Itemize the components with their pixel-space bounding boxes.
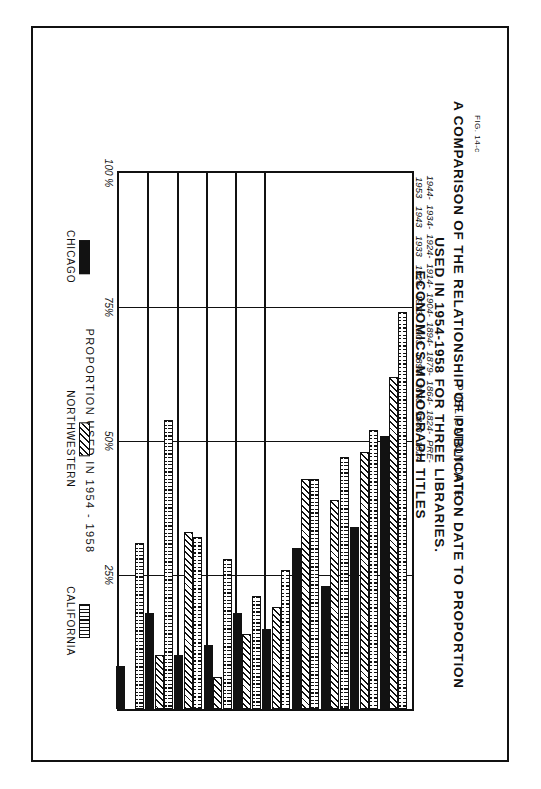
bar-group xyxy=(294,173,323,709)
category-tick: 1914-1923 xyxy=(414,263,436,287)
value-tick-100: 100 % xyxy=(103,158,114,186)
value-tick-25: 25% xyxy=(103,564,114,584)
category-label-top: 1914- xyxy=(425,263,436,287)
group-separator xyxy=(176,173,178,709)
legend-label-chicago: CHICAGO xyxy=(65,229,76,283)
bar-california xyxy=(251,596,260,709)
group-separator xyxy=(147,173,149,709)
bar-california xyxy=(281,569,290,708)
category-label-bottom: 1953 xyxy=(414,175,425,199)
category-label-bottom: 1863 xyxy=(414,409,425,433)
category-axis-title: PUBLICATION DATE xyxy=(453,171,464,711)
rotated-figure-canvas: FIG. 14-c A COMPARISON OF THE RELATIONSH… xyxy=(56,45,486,745)
bar-northwestern xyxy=(301,478,310,708)
bar-northwestern xyxy=(359,451,368,708)
category-label-bottom: 1913 xyxy=(414,292,425,316)
bar-california xyxy=(163,419,172,708)
bar-northwestern xyxy=(388,376,397,708)
category-label-bottom: 1923 xyxy=(414,263,425,287)
legend-item: NORTHWESTERN xyxy=(65,390,90,487)
bar-group xyxy=(324,173,353,709)
value-tick-50: 50% xyxy=(103,430,114,450)
bar-chicago xyxy=(115,666,124,709)
bar-group xyxy=(177,173,206,709)
category-tick: 1824-1863 xyxy=(414,409,436,433)
bar-california xyxy=(193,537,202,709)
figure-number: FIG. 14-c xyxy=(473,115,482,153)
group-separator xyxy=(205,173,207,709)
legend-swatch-chicago xyxy=(79,239,90,273)
category-label-top: 1894- xyxy=(425,321,436,345)
bar-california xyxy=(310,478,319,708)
category-label-bottom: 1893 xyxy=(414,351,425,375)
category-tick-labels: PRE-18241824-18631864-18781879-18931894-… xyxy=(416,171,436,711)
category-label-bottom: 1878 xyxy=(414,380,425,404)
category-label-bottom: 1824 xyxy=(414,439,425,462)
bar-group xyxy=(265,173,294,709)
category-tick: 1879-1893 xyxy=(414,351,436,375)
category-label-bottom: 1933 xyxy=(414,234,425,258)
category-label-top: 1879- xyxy=(425,351,436,375)
bar-california xyxy=(134,542,143,708)
bar-california xyxy=(398,312,407,709)
category-label-bottom: 1943 xyxy=(414,204,425,228)
group-separator xyxy=(235,173,237,709)
bar-northwestern xyxy=(271,607,280,709)
category-tick: 1904-1913 xyxy=(414,292,436,316)
legend: CHICAGONORTHWESTERNCALIFORNIA xyxy=(60,171,90,711)
legend-item: CHICAGO xyxy=(65,229,90,283)
category-label-top: 1864- xyxy=(425,380,436,404)
category-tick: 1864-1878 xyxy=(414,380,436,404)
category-tick: PRE-1824 xyxy=(414,439,436,462)
value-tick-labels: 100 %75%50%25% xyxy=(98,171,114,711)
bar-northwestern xyxy=(154,655,163,709)
category-tick: 1934-1943 xyxy=(414,204,436,228)
category-label-top: 1924- xyxy=(425,234,436,258)
bar-northwestern xyxy=(330,499,339,708)
legend-item: CALIFORNIA xyxy=(65,586,90,656)
legend-swatch-california xyxy=(79,604,90,638)
bar-group xyxy=(119,173,148,709)
category-label-top: 1934- xyxy=(425,204,436,228)
category-label-top: 1904- xyxy=(425,292,436,316)
bar-group xyxy=(382,173,411,709)
bar-group xyxy=(206,173,235,709)
bar-california xyxy=(369,430,378,709)
category-tick: 1944-1953 xyxy=(414,175,436,199)
value-tick-75: 75% xyxy=(103,296,114,316)
plot-area xyxy=(117,171,414,711)
figure-page: FIG. 14-c A COMPARISON OF THE RELATIONSH… xyxy=(0,0,541,789)
category-tick: 1894-1903 xyxy=(414,321,436,345)
legend-label-northwestern: NORTHWESTERN xyxy=(65,390,76,487)
category-label-top: 1824- xyxy=(425,409,436,433)
bar-california xyxy=(339,457,348,709)
category-label-bottom: 1903 xyxy=(414,321,425,345)
bar-northwestern xyxy=(242,633,251,708)
group-separator xyxy=(264,173,266,709)
bar-group xyxy=(148,173,177,709)
bar-california xyxy=(222,558,231,708)
category-label-top: 1944- xyxy=(425,175,436,199)
category-tick: 1924-1933 xyxy=(414,234,436,258)
bar-northwestern xyxy=(213,676,222,708)
category-label-top: PRE- xyxy=(425,439,436,462)
bar-northwestern xyxy=(183,532,192,709)
legend-label-california: CALIFORNIA xyxy=(65,586,76,656)
legend-swatch-northwestern xyxy=(79,422,90,456)
bar-group xyxy=(236,173,265,709)
bar-group xyxy=(353,173,382,709)
